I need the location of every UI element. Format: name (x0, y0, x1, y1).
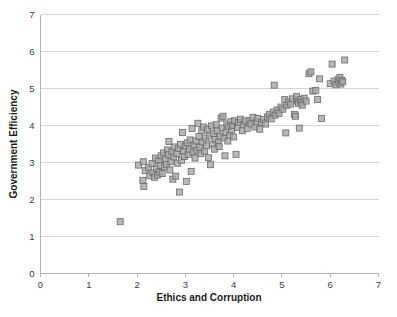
data-point (179, 130, 185, 136)
data-point (329, 61, 335, 67)
chart-figure: 01234567 01234567 Ethics and Corruption … (0, 0, 397, 317)
data-point (173, 173, 179, 179)
y-tick-label-5: 5 (29, 83, 34, 94)
data-point (207, 162, 213, 168)
data-point (204, 143, 210, 149)
data-point (167, 167, 173, 173)
y-tick-label-3: 3 (29, 157, 34, 168)
x-tick-label-5: 5 (279, 279, 284, 290)
data-point (213, 122, 219, 128)
data-point (271, 82, 277, 88)
y-tick-label-4: 4 (29, 120, 34, 131)
x-axis-title: Ethics and Corruption (157, 292, 262, 303)
x-tick-label-3: 3 (183, 279, 188, 290)
data-point (166, 138, 172, 144)
data-point (177, 189, 183, 195)
data-point (292, 113, 298, 119)
x-tick-label-1: 1 (86, 279, 91, 290)
scatter-plot: 01234567 01234567 Ethics and Corruption … (0, 0, 397, 317)
data-point (231, 134, 237, 140)
data-point (183, 178, 189, 184)
data-point (257, 126, 263, 132)
data-point (196, 134, 202, 140)
data-point (192, 155, 198, 161)
data-point (141, 184, 147, 190)
data-point (303, 98, 309, 104)
y-axis-title: Government Efficiency (8, 89, 19, 198)
x-tick-label-4: 4 (231, 279, 236, 290)
data-point (140, 159, 146, 165)
x-axis-ticks (41, 274, 379, 278)
data-point (117, 219, 123, 225)
x-tick-label-6: 6 (328, 279, 333, 290)
x-tick-label-2: 2 (134, 279, 139, 290)
data-point (308, 69, 314, 75)
x-tick-label-7: 7 (376, 279, 381, 290)
data-point (319, 115, 325, 121)
data-point (283, 130, 289, 136)
y-tick-label-1: 1 (29, 231, 34, 242)
y-tick-label-7: 7 (29, 9, 34, 20)
data-point (222, 153, 228, 159)
data-point (220, 113, 226, 119)
data-point (317, 76, 323, 82)
data-point (188, 168, 194, 174)
data-point (342, 57, 348, 63)
y-axis-tick-labels: 01234567 (29, 9, 34, 279)
x-axis-tick-labels: 01234567 (38, 279, 381, 290)
data-point (296, 125, 302, 131)
y-tick-label-0: 0 (29, 268, 34, 279)
data-point (225, 138, 231, 144)
y-tick-label-6: 6 (29, 46, 34, 57)
data-point (189, 125, 195, 131)
data-point (159, 171, 165, 177)
data-point (340, 79, 346, 85)
data-point (315, 97, 321, 103)
x-tick-label-0: 0 (38, 279, 43, 290)
data-point (140, 177, 146, 183)
data-point (195, 120, 201, 126)
data-point (233, 151, 239, 157)
data-point (263, 121, 269, 127)
data-point (216, 144, 222, 150)
data-point (206, 155, 212, 161)
data-point (313, 87, 319, 93)
y-tick-label-2: 2 (29, 194, 34, 205)
